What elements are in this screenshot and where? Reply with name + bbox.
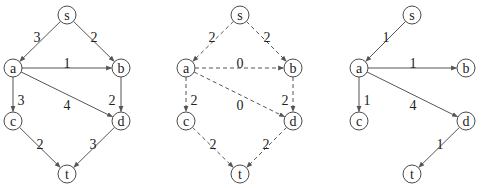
node-g3-s: s — [403, 6, 421, 24]
node-g2-d: d — [284, 112, 302, 130]
edge-weight-label: 3 — [18, 93, 25, 108]
node-label: c — [183, 114, 189, 129]
edge-weight-label: 3 — [90, 137, 97, 152]
edge-weight-label: 1 — [410, 56, 417, 71]
edge-weight-label: 1 — [364, 93, 371, 108]
edge-weight-label: 1 — [383, 30, 390, 45]
node-g3-a: a — [350, 59, 368, 77]
node-g1-b: b — [112, 59, 130, 77]
edge-weight-label: 3 — [34, 30, 41, 45]
edge-weight-label: 2 — [37, 137, 44, 152]
edge-weight-label: 1 — [437, 137, 444, 152]
node-g3-b: b — [457, 59, 475, 77]
graph-diagram-canvas: sabcdtsabcdtsabcdt 321342232202022211141 — [0, 0, 482, 188]
edge-weight-label: 4 — [410, 98, 417, 113]
edge-weight-label: 2 — [264, 30, 271, 45]
node-label: a — [10, 61, 17, 76]
node-label: t — [410, 167, 414, 182]
node-g2-s: s — [231, 6, 249, 24]
node-g2-t: t — [231, 165, 249, 183]
node-g2-a: a — [177, 59, 195, 77]
edge-weight-label: 1 — [64, 56, 71, 71]
node-label: d — [118, 114, 125, 129]
node-g3-t: t — [403, 165, 421, 183]
node-g1-d: d — [112, 112, 130, 130]
node-label: a — [183, 61, 190, 76]
node-g1-a: a — [4, 59, 22, 77]
edge-weight-label: 0 — [237, 98, 244, 113]
node-g3-c: c — [350, 112, 368, 130]
node-label: c — [356, 114, 362, 129]
node-label: t — [238, 167, 242, 182]
node-label: d — [463, 114, 470, 129]
node-g2-c: c — [177, 112, 195, 130]
edge-weight-label: 4 — [64, 98, 71, 113]
edge-weight-label: 2 — [109, 93, 116, 108]
node-g3-d: d — [457, 112, 475, 130]
node-label: s — [64, 8, 69, 23]
node-g1-s: s — [58, 6, 76, 24]
edge-weight-label: 2 — [209, 30, 216, 45]
edge-weight-label: 2 — [282, 93, 289, 108]
edge-weight-label: 2 — [191, 93, 198, 108]
node-label: s — [409, 8, 414, 23]
node-label: b — [290, 61, 297, 76]
edge-weight-label: 2 — [210, 137, 217, 152]
node-g1-c: c — [4, 112, 22, 130]
node-label: b — [118, 61, 125, 76]
node-label: d — [290, 114, 297, 129]
node-label: t — [65, 167, 69, 182]
node-g2-b: b — [284, 59, 302, 77]
edge-weight-label: 2 — [91, 30, 98, 45]
node-label: s — [237, 8, 242, 23]
node-label: a — [356, 61, 363, 76]
node-label: b — [463, 61, 470, 76]
edge-weight-label: 0 — [237, 56, 244, 71]
node-label: c — [10, 114, 16, 129]
node-g1-t: t — [58, 165, 76, 183]
edge-weight-label: 2 — [263, 137, 270, 152]
